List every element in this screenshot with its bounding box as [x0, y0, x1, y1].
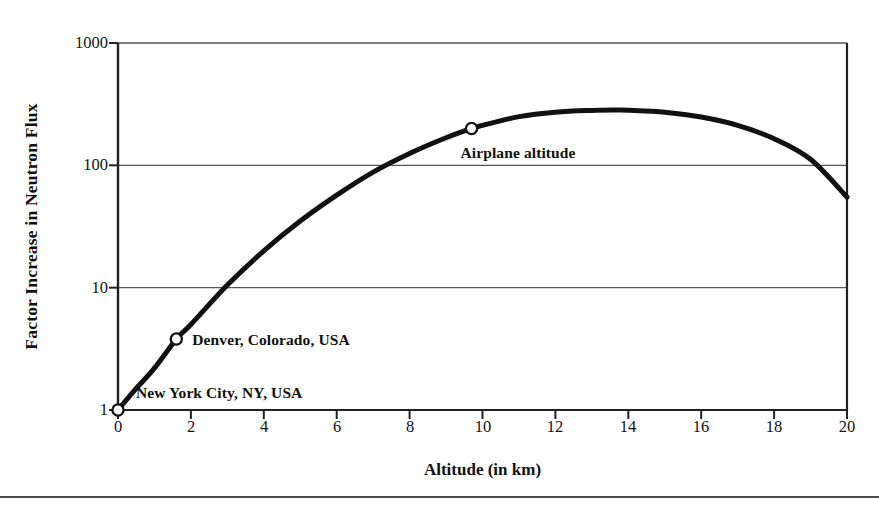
- gridlines: [118, 43, 847, 410]
- page-divider-rule: [0, 496, 879, 498]
- chart-figure: Factor Increase in Neutron Flux 1000 100…: [0, 0, 879, 508]
- axis-ticks: [109, 43, 847, 419]
- annotation-airplane-altitude: Airplane altitude: [461, 144, 576, 162]
- x-axis-title: Altitude (in km): [118, 460, 847, 480]
- data-markers: [112, 123, 477, 416]
- plot-area: [0, 0, 879, 508]
- annotation-new-york-city: New York City, NY, USA: [136, 384, 302, 402]
- axis-lines: [118, 43, 847, 410]
- annotation-denver: Denver, Colorado, USA: [192, 331, 349, 349]
